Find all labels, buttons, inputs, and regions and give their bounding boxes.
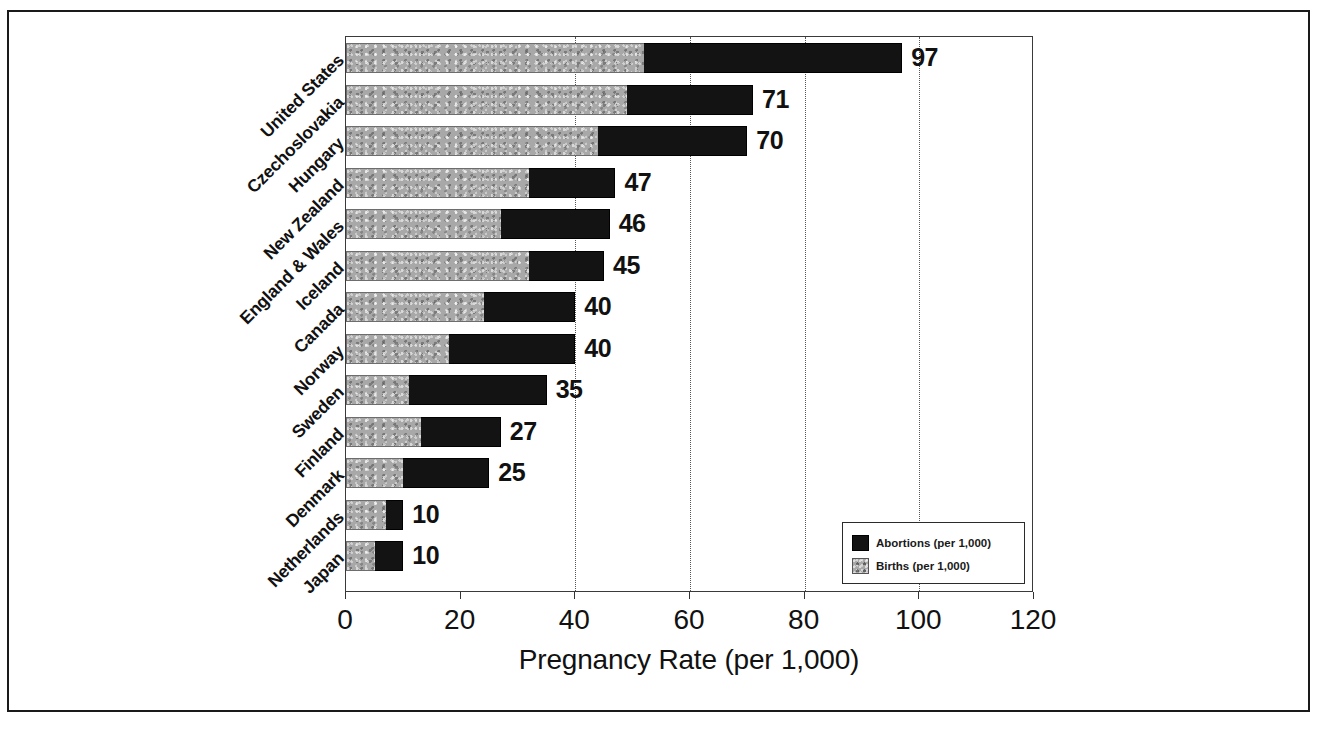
bar-value-label: 10: [412, 540, 439, 570]
bar-segment-births: [346, 209, 501, 239]
bar-segment-births: [346, 334, 449, 364]
figure-frame: United StatesCzechoslovakiaHungaryNew Ze…: [7, 10, 1310, 712]
bar-segment-births: [346, 126, 598, 156]
bar-value-label: 40: [584, 333, 611, 363]
bar-finland: [346, 417, 501, 447]
bar-value-label: 47: [624, 167, 651, 197]
bar-segment-births: [346, 417, 421, 447]
bar-denmark: [346, 458, 489, 488]
bar-value-label: 40: [584, 291, 611, 321]
bar-segment-births: [346, 500, 386, 530]
bar-iceland: [346, 251, 604, 281]
bar-segment-abortions: [421, 417, 501, 447]
x-tick-40: [574, 592, 575, 599]
bar-segment-births: [346, 85, 627, 115]
x-tick-label-60: 60: [673, 604, 704, 636]
bar-value-label: 71: [762, 84, 789, 114]
x-tick-label-0: 0: [337, 604, 353, 636]
bar-segment-abortions: [449, 334, 575, 364]
chart-legend: Abortions (per 1,000) Births (per 1,000): [842, 522, 1025, 584]
bar-value-label: 97: [911, 42, 938, 72]
gridline-80: [805, 37, 806, 591]
x-axis-title: Pregnancy Rate (per 1,000): [345, 644, 1033, 676]
x-tick-100: [918, 592, 919, 599]
legend-item-abortions: Abortions (per 1,000): [852, 532, 1024, 553]
chart-canvas: United StatesCzechoslovakiaHungaryNew Ze…: [9, 12, 1312, 714]
bar-segment-births: [346, 168, 529, 198]
bar-segment-births: [346, 251, 529, 281]
bar-segment-abortions: [403, 458, 489, 488]
bar-segment-births: [346, 458, 403, 488]
x-tick-0: [345, 592, 346, 599]
x-tick-label-40: 40: [559, 604, 590, 636]
bar-segment-abortions: [529, 251, 604, 281]
bar-united-states: [346, 43, 902, 73]
bar-segment-abortions: [484, 292, 576, 322]
bar-value-label: 35: [556, 374, 583, 404]
bar-sweden: [346, 375, 547, 405]
bar-value-label: 45: [613, 250, 640, 280]
gray-texture-swatch-icon: [852, 558, 869, 574]
bar-segment-births: [346, 43, 644, 73]
bar-segment-abortions: [598, 126, 747, 156]
bar-japan: [346, 541, 403, 571]
x-tick-20: [460, 592, 461, 599]
x-tick-label-100: 100: [895, 604, 942, 636]
bar-segment-abortions: [501, 209, 610, 239]
black-swatch-icon: [852, 535, 869, 551]
bar-segment-abortions: [627, 85, 753, 115]
x-tick-label-80: 80: [788, 604, 819, 636]
plot-area: [345, 36, 1033, 592]
x-tick-120: [1033, 592, 1034, 599]
bar-segment-abortions: [386, 500, 403, 530]
legend-item-births: Births (per 1,000): [852, 555, 1024, 576]
gridline-100: [919, 37, 920, 591]
bar-new-zealand: [346, 168, 615, 198]
bar-value-label: 10: [412, 499, 439, 529]
bar-value-label: 46: [619, 208, 646, 238]
bar-hungary: [346, 126, 747, 156]
x-tick-60: [689, 592, 690, 599]
bar-netherlands: [346, 500, 403, 530]
bar-norway: [346, 334, 575, 364]
bar-value-label: 27: [510, 416, 537, 446]
bar-segment-births: [346, 292, 484, 322]
bar-segment-births: [346, 375, 409, 405]
legend-label-abortions: Abortions (per 1,000): [876, 537, 991, 549]
bar-segment-abortions: [644, 43, 902, 73]
bar-england-wales: [346, 209, 610, 239]
bar-canada: [346, 292, 575, 322]
bar-segment-abortions: [409, 375, 547, 405]
gridline-60: [690, 37, 691, 591]
bar-value-label: 25: [498, 457, 525, 487]
x-tick-80: [804, 592, 805, 599]
legend-label-births: Births (per 1,000): [876, 560, 970, 572]
gridline-40: [575, 37, 576, 591]
bar-czechoslovakia: [346, 85, 753, 115]
x-tick-label-120: 120: [1010, 604, 1057, 636]
x-tick-label-20: 20: [444, 604, 475, 636]
bar-segment-abortions: [529, 168, 615, 198]
bar-segment-abortions: [375, 541, 404, 571]
bar-value-label: 70: [756, 125, 783, 155]
bar-segment-births: [346, 541, 375, 571]
